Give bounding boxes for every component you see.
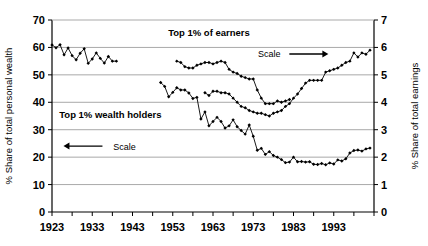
y-tick-label-right: 6 [381,41,387,53]
y-tick-label-left: 70 [33,14,45,26]
y-tick-label-right: 1 [381,179,387,191]
x-tick-label: 1963 [201,221,225,233]
earners-label: Top 1% of earners [168,27,250,38]
y-tick-label-right: 2 [381,151,387,163]
x-tick-label: 1983 [281,221,305,233]
x-tick-label: 1993 [322,221,346,233]
x-tick-label: 1953 [161,221,185,233]
y-tick-label-left: 50 [33,69,45,81]
y-tick-label-right: 5 [381,69,387,81]
y-tick-label-left: 40 [33,96,45,108]
y-tick-label-right: 4 [381,96,388,108]
y-axis-left-title: % Share of total personal wealth [3,48,14,185]
y-tick-label-right: 7 [381,14,387,26]
y-tick-label-right: 3 [381,124,387,136]
wealth-earnings-chart: 19231933194319531963197319831993 0102030… [0,0,428,246]
x-tick-label: 1933 [80,221,104,233]
x-tick-label: 1943 [120,221,144,233]
y-tick-label-left: 20 [33,151,45,163]
y-tick-label-left: 0 [39,206,45,218]
y-tick-label-left: 60 [33,41,45,53]
x-tick-label: 1923 [40,221,64,233]
y-tick-label-left: 10 [33,179,45,191]
x-tick-label: 1973 [241,221,265,233]
earners-scale: Scale [258,49,281,59]
chart-container: 19231933194319531963197319831993 0102030… [0,0,428,246]
wealth-scale: Scale [113,142,136,152]
wealth-label: Top 1% wealth holders [59,109,161,120]
y-tick-label-left: 30 [33,124,45,136]
y-tick-label-right: 0 [381,206,387,218]
y-axis-right-title: % Share of total earnings [409,62,420,169]
